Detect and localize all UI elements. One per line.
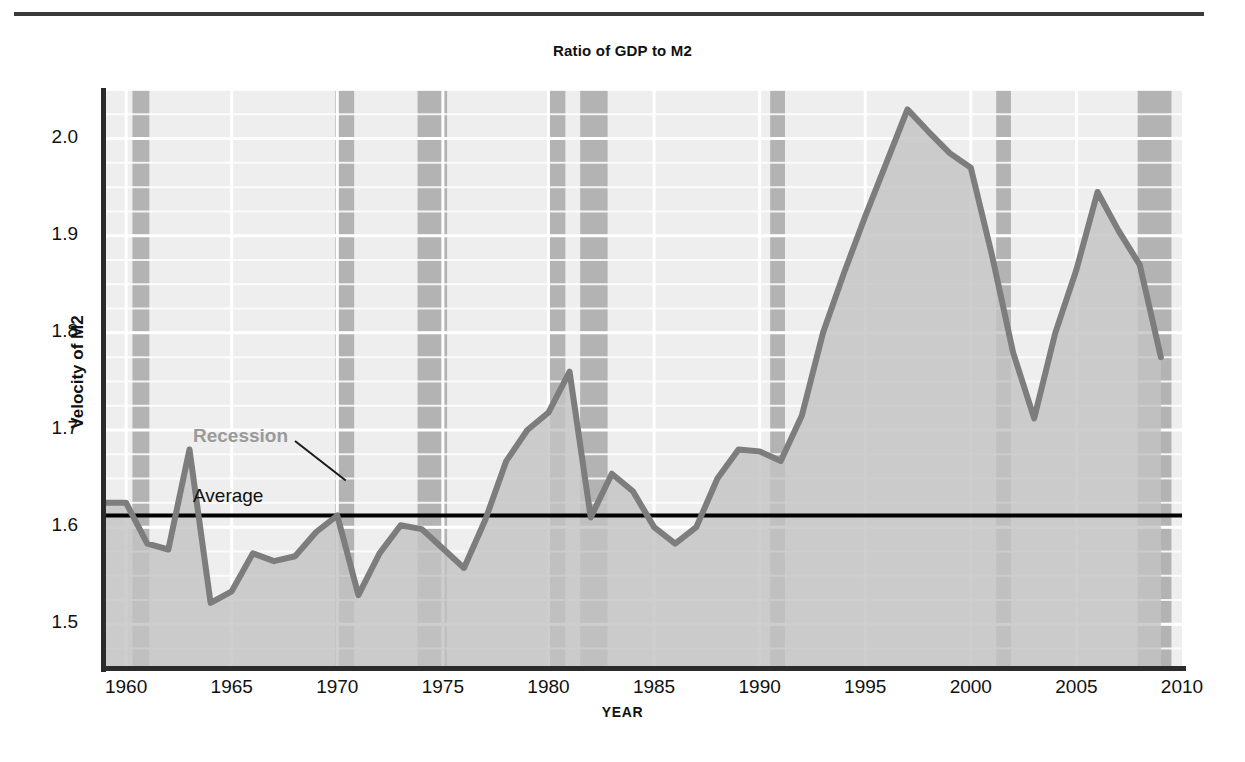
y-tick-label: 1.8 [0,320,78,342]
y-tick-label: 1.6 [0,514,78,536]
x-tick-label: 1990 [720,676,800,698]
x-axis-title: YEAR [0,704,1245,720]
y-tick-label: 2.0 [0,126,78,148]
x-tick-label: 1960 [86,676,166,698]
header-rule [14,12,1204,16]
y-axis-title: Velocity of M2 [68,272,88,472]
plot-area [105,90,1182,668]
x-tick-label: 1965 [192,676,272,698]
x-tick-label: 1985 [614,676,694,698]
x-tick-label: 2010 [1142,676,1222,698]
y-axis-line [101,88,106,672]
average-annotation-label: Average [193,485,263,507]
y-tick-label: 1.9 [0,223,78,245]
x-tick-label: 1980 [508,676,588,698]
figure-page: Ratio of GDP to M2 Velocity of M2 YEAR 1… [0,0,1245,762]
figure-title: Ratio of GDP to M2 [0,42,1245,59]
x-axis-line [101,666,1186,671]
x-tick-label: 1970 [297,676,377,698]
plot-shadow [105,90,1182,668]
y-tick-label: 1.5 [0,611,78,633]
x-tick-label: 2005 [1036,676,1116,698]
x-tick-label: 1995 [825,676,905,698]
recession-annotation-label: Recession [193,425,288,447]
x-tick-label: 1975 [403,676,483,698]
y-tick-label: 1.7 [0,417,78,439]
x-tick-label: 2000 [931,676,1011,698]
